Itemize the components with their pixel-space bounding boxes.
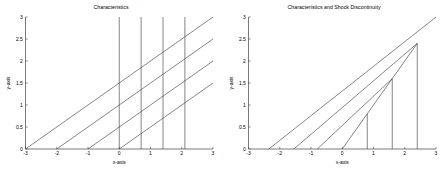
x-tick-label: 1 (372, 150, 375, 156)
y-tick-label: 0.5 (239, 124, 246, 130)
x-tick-label: 2 (180, 150, 183, 156)
plot-axes-right: -3-2-1012300.511.522.53x-axisy-axis (223, 0, 445, 176)
x-tick-label: 0 (118, 150, 121, 156)
y-tick-label: 2.5 (239, 36, 246, 42)
y-tick-label: 1.5 (16, 80, 23, 86)
x-tick-label: 0 (341, 150, 344, 156)
y-tick-label: 2 (20, 58, 23, 64)
y-tick-label: 0.5 (16, 124, 23, 130)
y-axis-label: y-axis (5, 76, 11, 90)
y-axis-label: y-axis (228, 76, 234, 90)
x-tick-label: 3 (212, 150, 215, 156)
x-tick-label: -1 (309, 150, 314, 156)
characteristic-3 (88, 61, 213, 149)
x-tick-label: -2 (278, 150, 283, 156)
x-tick-label: -3 (23, 150, 28, 156)
characteristic-4 (342, 114, 367, 149)
y-tick-label: 1.5 (239, 80, 246, 86)
plot-axes-left: -3-2-1012300.511.522.53x-axisy-axis (0, 0, 222, 176)
x-tick-label: 3 (435, 150, 438, 156)
characteristic-2 (57, 39, 213, 149)
y-tick-label: 3 (20, 14, 23, 20)
x-tick-label: 1 (149, 150, 152, 156)
x-axis-label: x-axis (336, 159, 350, 165)
x-tick-label: -2 (55, 150, 60, 156)
characteristic-3 (317, 79, 392, 149)
y-tick-label: 2 (243, 58, 246, 64)
x-tick-label: -1 (86, 150, 91, 156)
plot-panel-characteristics: Characteristics -3-2-1012300.511.522.53x… (0, 0, 222, 176)
x-tick-label: -3 (246, 150, 251, 156)
y-tick-label: 1 (20, 102, 23, 108)
x-tick-label: 2 (403, 150, 406, 156)
plot-panel-shock: Characteristics and Shock Discontinuity … (223, 0, 445, 176)
figure-canvas: Characteristics -3-2-1012300.511.522.53x… (0, 0, 445, 176)
y-tick-label: 2.5 (16, 36, 23, 42)
characteristic-2 (294, 43, 417, 149)
x-axis-label: x-axis (113, 159, 127, 165)
y-tick-label: 0 (20, 146, 23, 152)
y-tick-label: 1 (243, 102, 246, 108)
y-tick-label: 0 (243, 146, 246, 152)
y-tick-label: 3 (243, 14, 246, 20)
characteristic-1 (269, 17, 436, 149)
characteristic-4 (119, 83, 213, 149)
